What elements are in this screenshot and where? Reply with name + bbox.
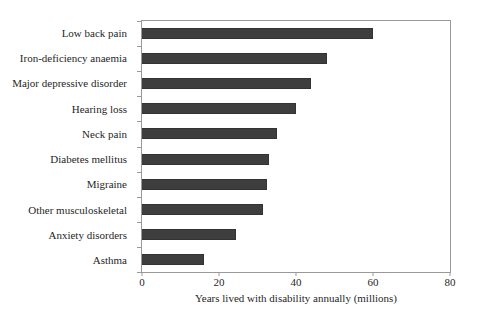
category-label: Other musculoskeletal bbox=[0, 197, 134, 222]
bar bbox=[142, 128, 277, 139]
y-axis-category-labels: Low back painIron-deficiency anaemiaMajo… bbox=[0, 20, 134, 273]
category-label: Anxiety disorders bbox=[0, 222, 134, 247]
x-axis-tick-label: 0 bbox=[139, 277, 145, 288]
category-label: Iron-deficiency anaemia bbox=[0, 45, 134, 70]
category-label: Low back pain bbox=[0, 20, 134, 45]
bar-row bbox=[142, 222, 450, 247]
bar-row bbox=[142, 121, 450, 146]
yld-bar-chart-figure: Low back painIron-deficiency anaemiaMajo… bbox=[0, 0, 478, 322]
bar bbox=[142, 154, 269, 165]
bar-row bbox=[142, 197, 450, 222]
bar bbox=[142, 179, 267, 190]
y-axis-tick bbox=[137, 71, 141, 72]
y-axis-tick bbox=[137, 96, 141, 97]
y-axis-tick bbox=[137, 272, 141, 273]
y-axis-tick bbox=[137, 147, 141, 148]
bar-row bbox=[142, 96, 450, 121]
plot-area: 020406080 Years lived with disability an… bbox=[141, 20, 451, 273]
bar-row bbox=[142, 46, 450, 71]
x-axis-tick-label: 60 bbox=[368, 277, 379, 288]
bar-row bbox=[142, 71, 450, 96]
y-axis-tick bbox=[137, 172, 141, 173]
bar bbox=[142, 204, 263, 215]
bar bbox=[142, 229, 236, 240]
category-label: Major depressive disorder bbox=[0, 71, 134, 96]
category-label: Asthma bbox=[0, 248, 134, 273]
y-axis-tick bbox=[137, 121, 141, 122]
category-label: Migraine bbox=[0, 172, 134, 197]
x-axis-title: Years lived with disability annually (mi… bbox=[142, 292, 450, 304]
y-axis-tick bbox=[137, 222, 141, 223]
bars-container bbox=[142, 21, 450, 272]
bar bbox=[142, 53, 327, 64]
y-axis-tick bbox=[137, 197, 141, 198]
x-axis-tick-label: 20 bbox=[214, 277, 225, 288]
category-label: Diabetes mellitus bbox=[0, 146, 134, 171]
y-axis-tick bbox=[137, 21, 141, 22]
y-axis-tick bbox=[137, 247, 141, 248]
bar-row bbox=[142, 172, 450, 197]
bar bbox=[142, 28, 373, 39]
bar bbox=[142, 103, 296, 114]
y-axis-tick bbox=[137, 46, 141, 47]
x-axis-tick-label: 80 bbox=[445, 277, 456, 288]
bar bbox=[142, 254, 204, 265]
category-label: Neck pain bbox=[0, 121, 134, 146]
bar bbox=[142, 78, 311, 89]
bar-row bbox=[142, 247, 450, 272]
bar-row bbox=[142, 146, 450, 171]
bar-row bbox=[142, 21, 450, 46]
category-label: Hearing loss bbox=[0, 96, 134, 121]
x-axis-tick-label: 40 bbox=[291, 277, 302, 288]
